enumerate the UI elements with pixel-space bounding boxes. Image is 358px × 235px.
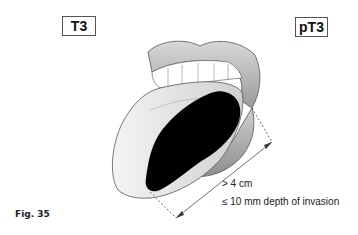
pathological-stage-label: pT3 [295,17,328,37]
depth-annotation: ≤ 10 mm depth of invasion [222,196,339,207]
size-annotation: > 4 cm [222,178,252,189]
clinical-stage-label: T3 [62,16,96,36]
figure-label: Fig. 35 [15,209,50,219]
